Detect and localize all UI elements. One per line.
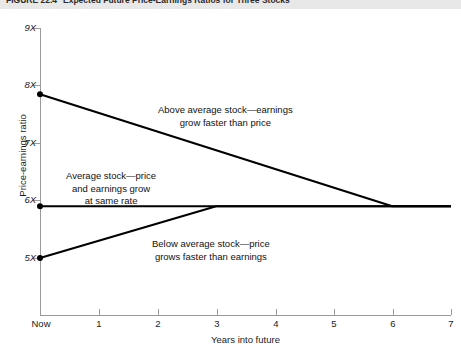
annotation-average-line-3: at same rate — [66, 195, 156, 208]
annotation-below-average-line-1: Below average stock—price — [152, 238, 270, 251]
annotation-average: Average stock—price and earnings grow at… — [66, 170, 156, 208]
annotation-below-average-line-2: grows faster than earnings — [152, 251, 270, 264]
series-start-marker-above-average — [37, 91, 43, 97]
annotation-average-line-2: and earnings grow — [66, 183, 156, 196]
chart-plot-area: 9X 8X 7X 6X 5X Price-earnings ratio Now … — [0, 0, 461, 355]
series-start-marker-below-average — [37, 255, 43, 261]
annotation-above-average-line-2: grow faster than price — [158, 117, 293, 130]
annotation-average-line-1: Average stock—price — [66, 170, 156, 183]
annotation-above-average-line-1: Above average stock—earnings — [158, 104, 293, 117]
annotation-below-average: Below average stock—price grows faster t… — [152, 238, 270, 263]
annotation-above-average: Above average stock—earnings grow faster… — [158, 104, 293, 129]
figure-container: FIGURE 22.4Expected Future Price-Earning… — [0, 0, 461, 355]
series-start-marker-average — [37, 203, 43, 209]
